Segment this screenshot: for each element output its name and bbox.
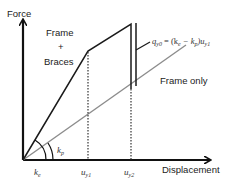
qy0-leader-line xyxy=(136,42,150,50)
frame-only-label: Frame only xyxy=(160,75,208,86)
kp-label: kp xyxy=(57,145,64,156)
qy0-equation: qy0 = (ke − kp)uy1 xyxy=(152,36,210,47)
uy1-label: uy1 xyxy=(81,167,91,178)
frame-braces-line xyxy=(23,24,131,160)
frame-braces-label-line1: Frame xyxy=(46,27,73,38)
ke-label: ke xyxy=(34,167,41,178)
frame-braces-label-line2: Braces xyxy=(44,56,74,67)
force-displacement-diagram: Force Displacement Frame + Braces Frame … xyxy=(0,0,235,186)
kp-angle-arc xyxy=(48,143,53,160)
frame-braces-label-plus: + xyxy=(58,41,64,52)
y-axis-label: Force xyxy=(7,8,31,19)
x-axis-label: Displacement xyxy=(162,164,220,175)
uy2-label: uy2 xyxy=(124,167,134,178)
